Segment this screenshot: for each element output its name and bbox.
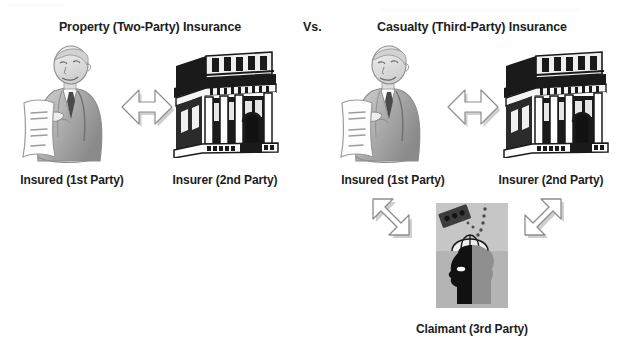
casualty-insured-label: Insured (1st Party) bbox=[322, 173, 464, 187]
insurer-bank-building-icon bbox=[172, 48, 280, 158]
property-relation-arrow-icon bbox=[118, 84, 176, 130]
claimant-head-umbrella-icon bbox=[436, 203, 508, 308]
casualty-insurance-panel: Casualty (Third-Party) Insurance bbox=[322, 0, 622, 343]
versus-label: Vs. bbox=[303, 20, 322, 34]
claimant-label: Claimant (3rd Party) bbox=[397, 322, 547, 336]
insurer-claimant-arrow-icon bbox=[518, 196, 574, 254]
casualty-insurer-label: Insurer (2nd Party) bbox=[480, 173, 622, 187]
casualty-insurer-bank-building-icon bbox=[502, 48, 610, 158]
casualty-insured-businessman-icon bbox=[336, 45, 440, 165]
property-insurer-label: Insurer (2nd Party) bbox=[155, 173, 295, 187]
casualty-relation-arrow-icon bbox=[444, 84, 502, 130]
property-insurance-title: Property (Two-Party) Insurance bbox=[0, 20, 300, 34]
insured-businessman-icon bbox=[18, 45, 122, 165]
insurance-comparison-diagram: Property (Two-Party) Insurance bbox=[0, 0, 622, 343]
insured-claimant-arrow-icon bbox=[360, 196, 416, 254]
property-insurance-panel: Property (Two-Party) Insurance bbox=[0, 0, 300, 200]
casualty-insurance-title: Casualty (Third-Party) Insurance bbox=[322, 20, 622, 34]
property-insured-label: Insured (1st Party) bbox=[0, 173, 144, 187]
